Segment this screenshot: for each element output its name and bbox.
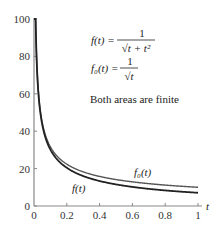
x-tick-1: 1 <box>195 209 201 221</box>
y-tick-labels: 0 20 40 60 80 100 <box>14 13 31 212</box>
x-axis-label: t <box>206 200 210 212</box>
note-text: Both areas are finite <box>90 93 179 105</box>
x-tick-0: 0 <box>31 209 37 221</box>
x-tick-0.4: 0.4 <box>93 209 107 221</box>
chart: 0 20 40 60 80 100 0 0.2 0.4 0.6 0.8 1 t … <box>0 0 222 228</box>
y-tick-40: 40 <box>19 125 31 137</box>
formula-f-lhs: f(t) = <box>91 34 115 47</box>
formula-f0-lhs: f₀(t) = <box>91 62 118 75</box>
y-tick-60: 60 <box>19 88 31 100</box>
curve-f <box>34 19 198 193</box>
formula-f: f(t) = 1 √t + t² <box>91 27 155 54</box>
x-tick-labels: 0 0.2 0.4 0.6 0.8 1 <box>31 209 201 221</box>
x-tick-0.8: 0.8 <box>158 209 172 221</box>
formula-f0-den: √t <box>124 70 134 82</box>
formula-f-num: 1 <box>139 27 145 39</box>
y-tick-80: 80 <box>19 50 31 62</box>
y-tick-0: 0 <box>25 200 31 212</box>
y-tick-100: 100 <box>14 13 31 25</box>
y-tick-20: 20 <box>19 163 31 175</box>
formula-f0: f₀(t) = 1 √t <box>91 55 138 82</box>
x-tick-0.2: 0.2 <box>60 209 74 221</box>
formula-f-den: √t + t² <box>122 42 151 54</box>
formula-f0-num: 1 <box>127 55 133 67</box>
curve-label-f: f(t) <box>72 182 86 195</box>
x-tick-0.6: 0.6 <box>126 209 140 221</box>
curve-label-f0: f₀(t) <box>134 166 152 179</box>
